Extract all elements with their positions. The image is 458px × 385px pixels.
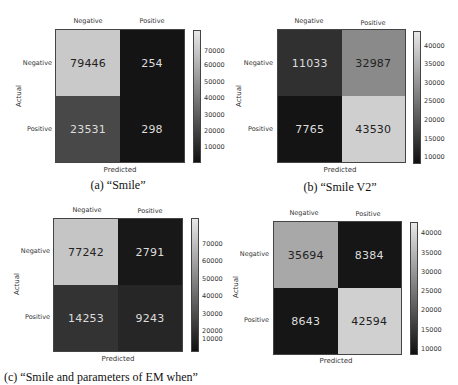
col-label-positive: Positive bbox=[355, 210, 380, 218]
colorbar-tick: 20000 bbox=[202, 327, 223, 335]
y-axis-label: Actual bbox=[15, 85, 23, 107]
y-axis-label: Actual bbox=[232, 276, 240, 298]
cell-fn: 7765 bbox=[278, 96, 342, 162]
colorbar-tick: 50000 bbox=[202, 275, 223, 283]
x-axis-label: Predicted bbox=[104, 166, 137, 174]
col-label-positive: Positive bbox=[360, 19, 385, 27]
cell-fn: 14253 bbox=[54, 285, 118, 351]
col-label-negative: Negative bbox=[72, 206, 101, 214]
row-label-positive: Positive bbox=[248, 125, 273, 133]
colorbar-tick: 60000 bbox=[202, 257, 223, 265]
matrix-grid: 77242 2791 14253 9243 bbox=[53, 218, 183, 352]
caption-b: (b) “Smile V2” bbox=[303, 180, 376, 195]
caption-c: (c) “Smile and parameters of EM when” bbox=[4, 370, 198, 385]
colorbar-tick: 40000 bbox=[202, 292, 223, 300]
colorbar-tick: 10000 bbox=[204, 143, 225, 151]
colorbar-tick: 30000 bbox=[202, 310, 223, 318]
row-label-negative: Negative bbox=[21, 247, 50, 255]
colorbar-tick: 70000 bbox=[202, 240, 223, 248]
row-label-negative: Negative bbox=[240, 250, 269, 258]
colorbar-tick: 20000 bbox=[421, 306, 442, 314]
colorbar-tick: 25000 bbox=[424, 97, 445, 105]
colorbar-tick: 30000 bbox=[421, 268, 442, 276]
colorbar-tick: 20000 bbox=[204, 127, 225, 135]
cell-fp: 8384 bbox=[338, 222, 402, 288]
col-label-negative: Negative bbox=[294, 17, 323, 25]
colorbar-tick: 60000 bbox=[204, 61, 225, 69]
cell-tn: 35694 bbox=[274, 222, 338, 288]
x-axis-label: Predicted bbox=[102, 355, 135, 363]
colorbar-tick: 25000 bbox=[421, 287, 442, 295]
colorbar-tick: 35000 bbox=[421, 249, 442, 257]
colorbar-tick: 70000 bbox=[204, 47, 225, 55]
matrix-grid: 11033 32987 7765 43530 bbox=[277, 29, 406, 163]
x-axis-label: Predicted bbox=[324, 166, 357, 174]
row-label-positive: Positive bbox=[27, 125, 52, 133]
cell-tn: 79446 bbox=[56, 30, 120, 96]
colorbar bbox=[191, 218, 199, 352]
cell-tp: 9243 bbox=[118, 285, 182, 351]
col-label-negative: Negative bbox=[73, 17, 102, 25]
colorbar-tick: 40000 bbox=[204, 94, 225, 102]
colorbar-tick: 10000 bbox=[421, 345, 442, 353]
cell-fn: 23531 bbox=[56, 96, 120, 162]
colorbar-tick: 40000 bbox=[424, 42, 445, 50]
cell-tp: 43530 bbox=[342, 96, 406, 162]
row-label-positive: Positive bbox=[244, 316, 269, 324]
cell-fp: 254 bbox=[120, 30, 184, 96]
colorbar-tick: 15000 bbox=[421, 326, 442, 334]
row-label-positive: Positive bbox=[25, 313, 50, 321]
y-axis-label: Actual bbox=[235, 85, 243, 107]
cell-fp: 32987 bbox=[342, 30, 406, 96]
cell-tp: 42594 bbox=[338, 288, 402, 354]
colorbar bbox=[410, 222, 418, 355]
cell-fn: 8643 bbox=[274, 288, 338, 354]
colorbar-tick: 50000 bbox=[204, 78, 225, 86]
colorbar-tick: 35000 bbox=[424, 60, 445, 68]
matrix-grid: 35694 8384 8643 42594 bbox=[273, 221, 402, 355]
y-axis-label: Actual bbox=[13, 273, 21, 295]
caption-a: (a) “Smile” bbox=[91, 178, 146, 193]
col-label-negative: Negative bbox=[289, 209, 318, 217]
cell-tn: 11033 bbox=[278, 30, 342, 96]
cell-tn: 77242 bbox=[54, 219, 118, 285]
colorbar-tick: 10000 bbox=[202, 335, 223, 343]
colorbar bbox=[193, 30, 201, 163]
colorbar-tick: 15000 bbox=[424, 135, 445, 143]
colorbar bbox=[413, 31, 421, 164]
row-label-negative: Negative bbox=[23, 59, 52, 67]
colorbar-tick: 30000 bbox=[424, 79, 445, 87]
x-axis-label: Predicted bbox=[320, 357, 353, 365]
colorbar-tick: 20000 bbox=[424, 116, 445, 124]
matrix-grid: 79446 254 23531 298 bbox=[55, 29, 185, 163]
col-label-positive: Positive bbox=[139, 17, 164, 25]
colorbar-tick: 30000 bbox=[204, 111, 225, 119]
cell-tp: 298 bbox=[120, 96, 184, 162]
row-label-negative: Negative bbox=[244, 59, 273, 67]
colorbar-tick: 40000 bbox=[421, 229, 442, 237]
colorbar-tick: 10000 bbox=[424, 153, 445, 161]
cell-fp: 2791 bbox=[118, 219, 182, 285]
col-label-positive: Positive bbox=[137, 207, 162, 215]
